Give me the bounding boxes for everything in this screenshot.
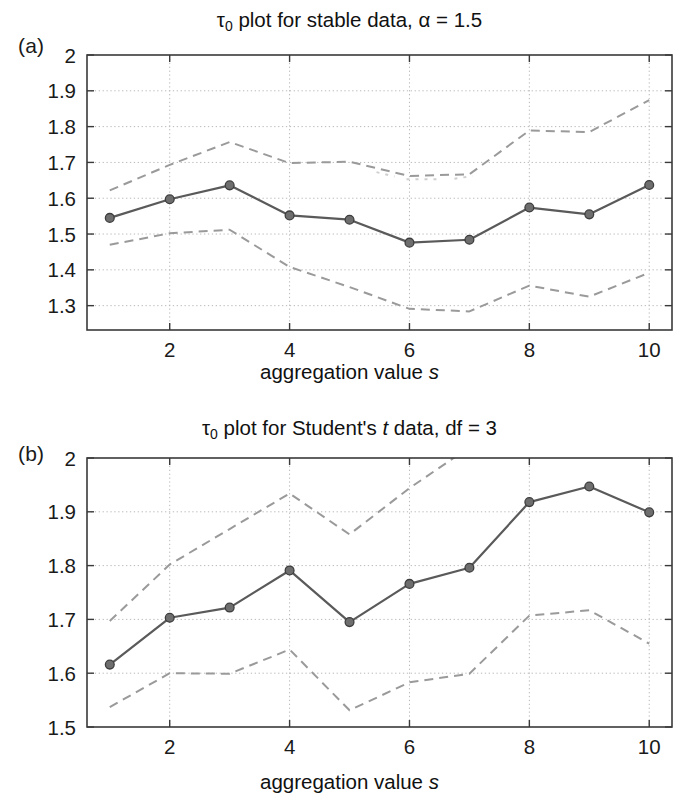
panel-a-xaxis-label-symbol: s <box>429 360 439 383</box>
ytick-label-5: 2 <box>65 447 76 470</box>
xtick-label-1: 4 <box>284 735 295 758</box>
xtick-label-2: 6 <box>404 735 415 758</box>
data-point-s7 <box>465 563 474 572</box>
xtick-label-4: 10 <box>638 735 661 758</box>
data-point-s9 <box>585 482 594 491</box>
xtick-label-0: 2 <box>164 338 175 361</box>
data-point-s5 <box>345 618 354 627</box>
gridlines <box>87 55 672 330</box>
ytick-label-0: 1.3 <box>48 294 77 317</box>
ytick-label-5: 1.8 <box>48 115 77 138</box>
data-point-s7 <box>465 235 474 244</box>
ytick-label-2: 1.5 <box>48 223 77 246</box>
data-point-s8 <box>525 203 534 212</box>
band-ghost-segment <box>454 176 472 179</box>
panel-b-xaxis-label: aggregation value s <box>0 770 699 794</box>
ytick-label-3: 1.6 <box>48 187 77 210</box>
ytick-label-4: 1.7 <box>48 151 77 174</box>
band-scan-artifact <box>377 172 473 179</box>
series-line-tau0-estimate <box>110 487 649 665</box>
ytick-label-1: 1.6 <box>48 662 77 685</box>
data-point-s8 <box>525 498 534 507</box>
panel-a-xaxis-label-text: aggregation value <box>260 360 429 383</box>
axes-frame <box>87 55 672 330</box>
figure-container: (a) τ0 plot for stable data, α = 1.5 1.3… <box>0 0 699 810</box>
ytick-label-3: 1.8 <box>48 554 77 577</box>
panel-a-plot: 1.31.41.51.61.71.81.92246810 <box>0 0 699 400</box>
data-point-s6 <box>405 579 414 588</box>
band-ghost-segment <box>377 172 395 176</box>
data-markers <box>105 181 653 247</box>
panel-b: (b) τ0 plot for Student's t data, df = 3… <box>0 410 699 810</box>
data-point-s4 <box>285 566 294 575</box>
data-point-s2 <box>165 613 174 622</box>
ytick-label-6: 1.9 <box>48 79 77 102</box>
ytick-label-2: 1.7 <box>48 608 77 631</box>
panel-b-xaxis-label-text: aggregation value <box>260 770 429 793</box>
data-point-s1 <box>105 660 114 669</box>
data-point-s10 <box>645 508 654 517</box>
ytick-label-0: 1.5 <box>48 716 77 739</box>
axis-ticks: 1.51.61.71.81.92246810 <box>48 447 673 759</box>
axes-frame <box>87 458 672 727</box>
panel-a-xaxis-label: aggregation value s <box>0 360 699 384</box>
data-point-s9 <box>585 210 594 219</box>
series-group <box>110 393 649 710</box>
data-point-s1 <box>105 214 114 223</box>
series-line-lower-confidence-band <box>110 230 649 312</box>
xtick-label-4: 10 <box>638 338 661 361</box>
data-point-s6 <box>405 238 414 247</box>
axis-ticks: 1.31.41.51.61.71.81.92246810 <box>48 44 673 362</box>
data-point-s3 <box>225 603 234 612</box>
series-line-lower-confidence-band <box>110 610 649 710</box>
series-group <box>110 100 649 311</box>
xtick-label-1: 4 <box>284 338 295 361</box>
data-point-s5 <box>345 215 354 224</box>
panel-b-plot: 1.51.61.71.81.92246810 <box>0 410 699 810</box>
series-line-upper-confidence-band <box>110 100 649 190</box>
ytick-label-7: 2 <box>65 44 76 67</box>
data-point-s4 <box>285 211 294 220</box>
data-point-s10 <box>645 181 654 190</box>
ytick-label-1: 1.4 <box>48 258 77 281</box>
data-point-s3 <box>225 181 234 190</box>
ytick-label-4: 1.9 <box>48 500 77 523</box>
data-point-s2 <box>165 195 174 204</box>
panel-a: (a) τ0 plot for stable data, α = 1.5 1.3… <box>0 0 699 400</box>
xtick-label-0: 2 <box>164 735 175 758</box>
series-line-upper-confidence-band <box>110 393 649 621</box>
xtick-label-3: 8 <box>524 735 535 758</box>
xtick-label-2: 6 <box>404 338 415 361</box>
xtick-label-3: 8 <box>524 338 535 361</box>
gridlines <box>87 458 672 727</box>
panel-b-xaxis-label-symbol: s <box>429 770 439 793</box>
